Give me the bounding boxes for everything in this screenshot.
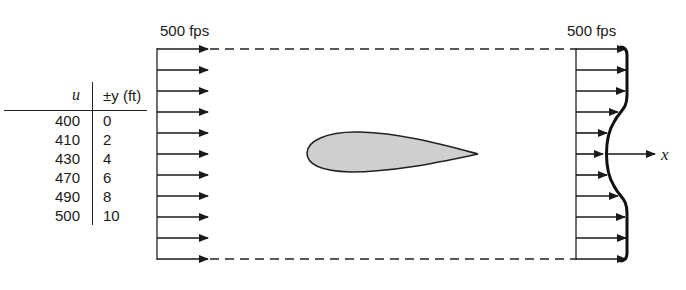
airfoil-shape: [307, 132, 478, 172]
inlet-velocity-arrows: [157, 49, 208, 259]
flow-diagram: [0, 0, 686, 290]
